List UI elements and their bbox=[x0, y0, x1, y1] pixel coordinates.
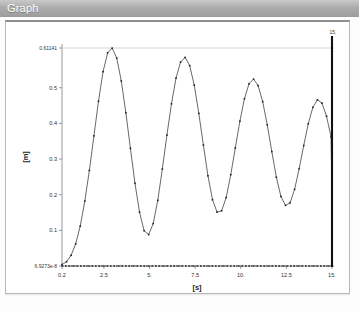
series-marker bbox=[253, 265, 254, 266]
series-marker bbox=[262, 101, 264, 103]
series-marker bbox=[148, 265, 149, 266]
series-marker bbox=[266, 124, 268, 126]
series-marker bbox=[120, 80, 122, 82]
x-axis-tick-label: 12.5 bbox=[281, 272, 292, 278]
series-marker bbox=[144, 265, 145, 266]
series-marker bbox=[65, 265, 66, 266]
series-marker bbox=[208, 265, 209, 266]
series-marker bbox=[289, 202, 291, 204]
series-marker bbox=[312, 107, 314, 109]
series-marker bbox=[316, 265, 317, 266]
series-line-height bbox=[62, 48, 332, 264]
panel-shadow bbox=[5, 294, 350, 296]
series-marker bbox=[148, 234, 150, 236]
series-marker bbox=[223, 265, 224, 266]
series-marker bbox=[317, 99, 319, 101]
y-axis-tick-label: 0.4 bbox=[49, 120, 57, 126]
series-marker bbox=[73, 265, 74, 266]
series-marker bbox=[219, 265, 220, 266]
y-axis-tick-label: 6.9273e-8 bbox=[34, 263, 57, 269]
series-marker bbox=[283, 265, 284, 266]
series-marker bbox=[253, 78, 255, 80]
series-marker bbox=[157, 200, 159, 202]
series-marker bbox=[175, 77, 177, 79]
series-marker bbox=[88, 265, 89, 266]
series-marker bbox=[181, 265, 182, 266]
series-marker bbox=[328, 265, 329, 266]
series-marker bbox=[196, 265, 197, 266]
series-marker bbox=[116, 57, 118, 59]
series-marker bbox=[69, 265, 70, 266]
cursor-marker-label: 15. bbox=[330, 29, 337, 35]
y-axis-tick-label: 0.2 bbox=[49, 192, 57, 198]
series-marker bbox=[162, 168, 164, 170]
series-marker bbox=[248, 83, 250, 85]
series-marker bbox=[321, 102, 323, 104]
series-marker bbox=[275, 265, 276, 266]
series-marker bbox=[235, 147, 237, 149]
series-marker bbox=[212, 199, 214, 201]
series-marker bbox=[151, 265, 152, 266]
series-marker bbox=[215, 265, 216, 266]
series-marker bbox=[184, 57, 186, 59]
series-marker bbox=[143, 230, 145, 232]
series-marker bbox=[166, 265, 167, 266]
series-marker bbox=[129, 265, 130, 266]
series-marker bbox=[234, 265, 235, 266]
series-marker bbox=[313, 265, 314, 266]
series-marker bbox=[307, 123, 309, 125]
series-marker bbox=[70, 255, 72, 257]
plot-area[interactable]: 6.9273e-80.10.20.30.40.50.611410.22.55.7… bbox=[6, 22, 351, 294]
series-marker bbox=[114, 265, 115, 266]
series-marker bbox=[260, 265, 261, 266]
series-marker bbox=[136, 265, 137, 266]
y-axis-tick-label: 0.1 bbox=[49, 227, 57, 233]
plot-svg[interactable]: 6.9273e-80.10.20.30.40.50.611410.22.55.7… bbox=[6, 22, 351, 294]
series-marker bbox=[216, 211, 218, 213]
series-marker bbox=[280, 196, 282, 198]
series-marker bbox=[159, 265, 160, 266]
series-marker bbox=[309, 265, 310, 266]
series-marker bbox=[238, 265, 239, 266]
window-titlebar[interactable]: Graph bbox=[0, 0, 359, 17]
series-marker bbox=[95, 265, 96, 266]
series-marker bbox=[230, 265, 231, 266]
series-marker bbox=[180, 61, 182, 63]
series-marker bbox=[298, 265, 299, 266]
series-marker bbox=[80, 265, 81, 266]
series-marker bbox=[226, 265, 227, 266]
series-marker bbox=[200, 265, 201, 266]
x-axis-tick-label: 7.5 bbox=[191, 272, 199, 278]
x-axis-tick-label: 15. bbox=[328, 272, 336, 278]
series-marker bbox=[326, 115, 328, 117]
series-marker bbox=[84, 265, 85, 266]
series-marker bbox=[305, 265, 306, 266]
x-axis-tick-label: 5. bbox=[147, 272, 152, 278]
series-marker bbox=[103, 265, 104, 266]
series-marker bbox=[239, 120, 241, 122]
series-marker bbox=[76, 265, 77, 266]
series-marker bbox=[203, 144, 205, 146]
series-marker bbox=[286, 265, 287, 266]
series-marker bbox=[111, 47, 113, 49]
series-marker bbox=[256, 265, 257, 266]
y-axis-tick-label: 0.61141 bbox=[39, 45, 57, 51]
series-marker bbox=[125, 265, 126, 266]
series-marker bbox=[271, 151, 273, 153]
series-marker bbox=[198, 113, 200, 115]
series-marker bbox=[139, 211, 141, 213]
series-marker bbox=[249, 265, 250, 266]
series-marker bbox=[290, 265, 291, 266]
series-marker bbox=[155, 265, 156, 266]
series-marker bbox=[91, 265, 92, 266]
x-axis-title: [s] bbox=[192, 283, 202, 292]
series-marker bbox=[171, 103, 173, 105]
series-marker bbox=[174, 265, 175, 266]
series-marker bbox=[140, 265, 141, 266]
series-marker bbox=[279, 265, 280, 266]
series-marker bbox=[276, 176, 278, 178]
series-marker bbox=[134, 182, 136, 184]
series-marker bbox=[245, 265, 246, 266]
series-marker bbox=[166, 134, 168, 136]
series-marker bbox=[268, 265, 269, 266]
